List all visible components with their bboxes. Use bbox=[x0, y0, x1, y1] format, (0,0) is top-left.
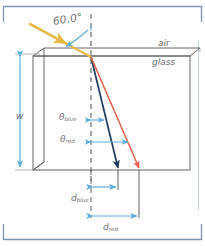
diagram-canvas bbox=[0, 0, 205, 246]
slab-bottom-left-edge bbox=[33, 162, 44, 170]
dimension-extension-ticks bbox=[91, 170, 139, 218]
d-red-subscript: red bbox=[109, 226, 118, 232]
blue-refracted-ray bbox=[91, 57, 118, 168]
red-refracted-ray bbox=[91, 57, 139, 168]
refraction-diagram: 60.0° air glass w θblue θred dblue dred bbox=[0, 0, 205, 246]
glass-label: glass bbox=[152, 57, 175, 67]
theta-blue-label: θblue bbox=[59, 112, 77, 122]
air-label: air bbox=[158, 38, 170, 48]
d-blue-subscript: blue bbox=[77, 197, 89, 203]
slab-thickness-label: w bbox=[16, 111, 23, 121]
d-blue-label: dblue bbox=[71, 193, 89, 203]
theta-red-label: θred bbox=[60, 134, 75, 144]
d-red-label: dred bbox=[103, 222, 118, 232]
incident-angle-arc bbox=[66, 30, 88, 47]
theta-red-subscript: red bbox=[66, 138, 75, 144]
theta-blue-subscript: blue bbox=[65, 116, 77, 122]
